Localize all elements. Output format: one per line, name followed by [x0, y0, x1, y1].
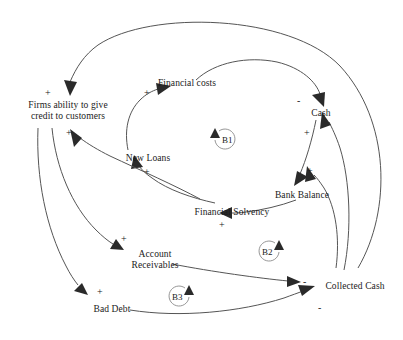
sign-into-account-receivables: +	[121, 234, 127, 244]
sign-into-collected-cash-from-bad-debt: -	[318, 303, 321, 313]
link-firms-ability-to-account-receivables	[52, 128, 124, 250]
node-new-loans: New Loans	[115, 153, 181, 164]
node-bank-balance: Bank Balance	[262, 190, 342, 201]
node-firms-ability-to-give-credit-to-customers: Firms ability to give credit to customer…	[10, 100, 126, 122]
node-financial-costs: Financial costs	[145, 78, 229, 89]
node-account-receivables: Account Receivables	[124, 249, 186, 271]
loop-label-b1: B1	[222, 136, 233, 145]
node-cash: Cash	[305, 108, 337, 119]
link-account-receivables-to-collected-cash	[172, 264, 301, 287]
loop-label-b3: B3	[172, 293, 183, 302]
sign-into-new-loans: +	[144, 167, 150, 177]
causal-loop-diagram: Firms ability to give credit to customer…	[0, 0, 403, 340]
sign-cash-to-bank-balance: +	[304, 128, 310, 138]
sign-into-bad-debt: +	[97, 287, 103, 297]
link-bad-debt-to-collected-cash	[130, 285, 315, 314]
sign-into-cash-from-financial-costs: -	[297, 96, 300, 106]
loop-label-b2: B2	[262, 248, 273, 257]
sign-into-financial-solvency: +	[219, 220, 225, 230]
link-collected-cash-to-firms-ability	[64, 22, 381, 268]
node-financial-solvency: Financial Solvency	[182, 207, 282, 218]
sign-into-bank-balance: +	[307, 166, 313, 176]
node-bad-debt: Bad Debt	[84, 304, 140, 315]
link-collected-cash-to-bank-balance	[305, 166, 338, 268]
sign-into-financial-costs: +	[144, 88, 150, 98]
sign-into-firms-ability-top: +	[45, 88, 51, 98]
sign-into-firms-ability-lower: +	[66, 128, 72, 138]
sign-into-collected-cash-from-receivables: -	[303, 277, 306, 287]
node-collected-cash: Collected Cash	[314, 281, 396, 292]
